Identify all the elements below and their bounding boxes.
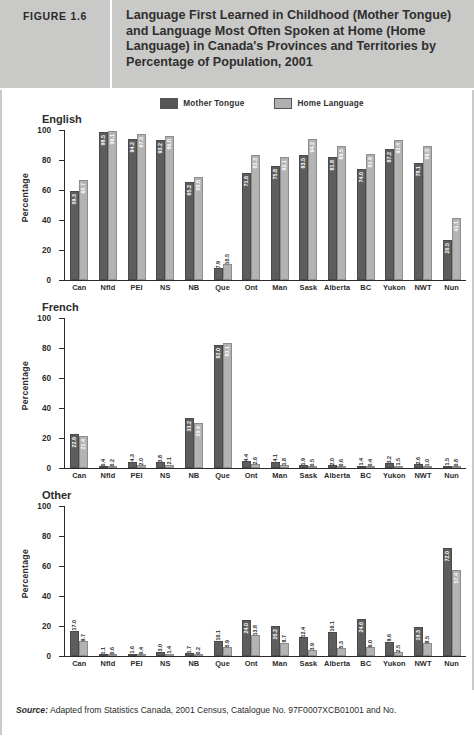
- bar-mother-tongue: 59.3: [70, 191, 79, 280]
- bar-value-label: 8.5: [423, 636, 432, 644]
- y-axis-tick-label: 100: [37, 314, 51, 323]
- legend-swatch-icon: [160, 98, 178, 109]
- bar-value-label: 1.4: [165, 646, 174, 654]
- bar-value-label: 78.1: [414, 166, 423, 177]
- bar-value-label: 68.8: [194, 180, 203, 191]
- bar-home-language: 29.9: [194, 423, 203, 468]
- bar-home-language: 83.9: [366, 154, 375, 280]
- bar-value-label: 98.5: [99, 135, 108, 146]
- bar-mother-tongue: 78.1: [414, 163, 423, 280]
- bar-group: 4.32.0: [122, 319, 151, 468]
- bar-value-label: 33.2: [185, 421, 194, 432]
- axis-area: 02040608010022.921.40.40.24.32.03.82.133…: [64, 319, 466, 469]
- bar-value-label: 81.8: [328, 160, 337, 171]
- x-axis-tick-label: BC: [351, 283, 380, 292]
- bar-group: 3.82.1: [151, 319, 180, 468]
- x-axis-labels: CanNfldPEINSNBQueOntManSaskAlbertaBCYuko…: [65, 659, 466, 668]
- x-axis-tick-label: Que: [208, 471, 237, 480]
- bar-value-label: 2.0: [137, 458, 146, 466]
- y-axis-tick: 0: [59, 280, 65, 281]
- bar-mother-tongue: 1.7: [185, 653, 194, 656]
- bar-group: 24.013.8: [237, 507, 266, 656]
- bar-mother-tongue: 3.8: [156, 462, 165, 468]
- y-axis-tick-label: 0: [46, 276, 51, 285]
- bar-group: 0.40.2: [94, 319, 123, 468]
- y-axis-tick: 0: [59, 468, 65, 469]
- bar-value-label: 8.7: [280, 635, 289, 643]
- bar-value-label: 1.1: [99, 647, 108, 655]
- bar-value-label: 83.5: [299, 158, 308, 169]
- bar-value-label: 26.5: [443, 243, 452, 254]
- bar-value-label: 21.4: [79, 439, 88, 450]
- bar-mother-tongue: 1.1: [99, 654, 108, 656]
- bar-value-label: 20.2: [271, 629, 280, 640]
- bar-mother-tongue: 75.8: [271, 166, 280, 280]
- bar-home-language: 5.3: [337, 648, 346, 656]
- x-axis-tick-label: Man: [265, 471, 294, 480]
- bar-group: 22.921.4: [65, 319, 94, 468]
- bar-mother-tongue: 24.6: [357, 619, 366, 656]
- bar-mother-tongue: 82.0: [214, 345, 223, 468]
- bar-value-label: 75.8: [271, 169, 280, 180]
- x-axis-labels: CanNfldPEINSNBQueOntManSaskAlbertaBCYuko…: [65, 283, 466, 292]
- bar-group: 33.229.9: [180, 319, 209, 468]
- x-axis-tick-label: Yukon: [380, 659, 409, 668]
- bar-group: 71.683.3: [237, 131, 266, 280]
- figure-body: Mother Tongue Home Language EnglishPerce…: [0, 90, 474, 690]
- bar-value-label: 1.6: [128, 646, 137, 654]
- bar-mother-tongue: 87.2: [385, 149, 394, 280]
- bar-mother-tongue: 0.4: [99, 466, 108, 468]
- axis-area: 02040608010017.09.71.10.61.60.43.01.41.7…: [64, 507, 466, 657]
- bar-value-label: 6.0: [366, 640, 375, 648]
- x-axis-tick-label: Ont: [237, 283, 266, 292]
- bar-group: 78.189.3: [409, 131, 438, 280]
- bar-mother-tongue: 1.4: [357, 466, 366, 468]
- bar-value-label: 89.3: [423, 149, 432, 160]
- bar-value-label: 2.5: [394, 645, 403, 653]
- x-axis-tick-label: Ont: [237, 659, 266, 668]
- x-axis-tick-label: BC: [351, 659, 380, 668]
- source-label: Source:: [16, 705, 48, 715]
- y-axis-tick-label: 40: [42, 404, 51, 413]
- y-axis-tick-label: 20: [42, 622, 51, 631]
- bar-home-language: 0.6: [337, 466, 346, 468]
- x-axis-tick-label: Sask: [294, 659, 323, 668]
- bar-value-label: 1.5: [394, 458, 403, 466]
- x-axis-tick-label: Man: [265, 659, 294, 668]
- bar-value-label: 0.6: [108, 647, 117, 655]
- bar-value-label: 3.0: [156, 644, 165, 652]
- bar-mother-tongue: 98.5: [99, 132, 108, 280]
- bar-home-language: 1.8: [280, 465, 289, 468]
- bar-value-label: 4.1: [271, 454, 280, 462]
- bar-value-label: 1.4: [357, 458, 366, 466]
- bar-value-label: 10.5: [223, 254, 232, 265]
- bar-value-label: 89.5: [337, 149, 346, 160]
- y-axis-tick-label: 40: [42, 592, 51, 601]
- y-axis-tick-label: 20: [42, 246, 51, 255]
- bar-value-label: 97.3: [137, 137, 146, 148]
- bar-home-language: 0.2: [194, 654, 203, 656]
- bar-value-label: 82.1: [280, 160, 289, 171]
- bar-mother-tongue: 3.0: [156, 652, 165, 657]
- bar-value-label: 9.7: [79, 634, 88, 642]
- bar-home-language: 68.8: [194, 177, 203, 280]
- bar-home-language: 82.1: [280, 157, 289, 280]
- bar-home-language: 9.7: [79, 641, 88, 656]
- bar-group: 93.296.0: [151, 131, 180, 280]
- bar-mother-tongue: 26.5: [443, 240, 452, 280]
- bar-mother-tongue: 2.6: [414, 464, 423, 468]
- bar-home-language: 5.9: [223, 647, 232, 656]
- bar-value-label: 10.1: [214, 630, 223, 641]
- chart-panels: EnglishPercentage02040608010059.366.798.…: [2, 113, 472, 677]
- bar-home-language: 99.1: [108, 131, 117, 280]
- bars-container: 59.366.798.599.194.297.393.296.065.268.8…: [65, 131, 466, 280]
- bar-value-label: 2.6: [414, 457, 423, 465]
- bar-group: 81.889.5: [323, 131, 352, 280]
- bar-value-label: 59.3: [70, 194, 79, 205]
- bar-value-label: 65.2: [185, 185, 194, 196]
- y-axis-tick-label: 40: [42, 216, 51, 225]
- bar-home-language: 93.4: [394, 140, 403, 280]
- x-axis-labels: CanNfldPEINSNBQueOntManSaskAlbertaBCYuko…: [65, 471, 466, 480]
- bar-home-language: 13.8: [251, 635, 260, 656]
- x-axis-tick-label: Can: [65, 471, 94, 480]
